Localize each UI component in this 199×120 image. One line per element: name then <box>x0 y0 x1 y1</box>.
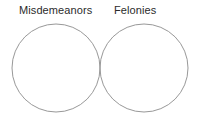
venn-circle-right[interactable] <box>100 24 188 112</box>
venn-diagram: Misdemeanors Felonies <box>0 0 199 120</box>
venn-circle-left[interactable] <box>12 24 100 112</box>
venn-label-left: Misdemeanors <box>19 4 92 16</box>
venn-circles-canvas <box>0 0 199 120</box>
venn-label-right: Felonies <box>114 4 156 16</box>
